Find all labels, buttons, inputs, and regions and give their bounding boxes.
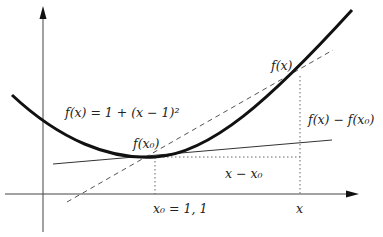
function-curve xyxy=(12,10,352,157)
f-x0-label: f(x₀) xyxy=(133,138,159,151)
dx-label: x − x₀ xyxy=(225,168,263,181)
x-axis-arrow-icon xyxy=(346,191,359,198)
function-label: f(x) = 1 + (x − 1)² xyxy=(65,107,179,120)
x-tick-label: x xyxy=(296,203,303,216)
x0-tick-label: x₀ = 1, 1 xyxy=(153,203,207,216)
diagram-canvas: f(x) = 1 + (x − 1)² f(x₀) f(x) f(x) − f(… xyxy=(0,0,383,237)
difference-label: f(x) − f(x₀) xyxy=(308,114,374,127)
f-x-label: f(x) xyxy=(271,60,292,73)
tangent-line xyxy=(53,140,332,164)
y-axis-arrow-icon xyxy=(40,6,47,19)
